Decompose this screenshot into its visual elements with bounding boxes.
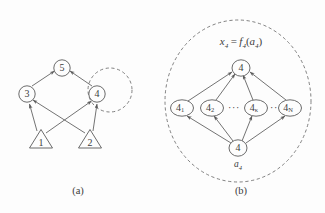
panel-b: x4=f4(a4) 4 bbox=[165, 20, 311, 197]
node-1-label: 1 bbox=[39, 137, 44, 148]
panel-b-edges-down bbox=[187, 116, 285, 143]
edge-bot-to-m2 bbox=[214, 116, 233, 141]
figure-root: 5 3 4 1 2 (a) bbox=[0, 0, 325, 213]
node-b-bottom: 4 bbox=[229, 140, 247, 156]
expansion-formula: x4=f4(a4) bbox=[219, 35, 263, 50]
node-3: 3 bbox=[19, 86, 35, 102]
caption-b: (b) bbox=[235, 185, 248, 197]
node-b-top-label: 4 bbox=[239, 62, 244, 73]
edge-1-to-3 bbox=[30, 104, 38, 131]
node-2-label: 2 bbox=[88, 137, 93, 148]
node-b-m1-sub: 1 bbox=[181, 107, 184, 114]
node-5-label: 5 bbox=[60, 62, 65, 73]
node-4-label: 4 bbox=[95, 88, 100, 99]
node-5: 5 bbox=[54, 60, 70, 76]
formula-close-paren: ) bbox=[259, 35, 263, 48]
node-1: 1 bbox=[30, 130, 53, 149]
edge-1-to-4 bbox=[46, 101, 92, 133]
node-4: 4 bbox=[89, 86, 105, 102]
node-b-mk: 4κ bbox=[245, 100, 268, 116]
node-b-bottom-label: 4 bbox=[236, 142, 241, 153]
edge-m2-to-top bbox=[216, 74, 235, 100]
edge-3-to-5 bbox=[32, 71, 55, 86]
edge-2-to-4 bbox=[93, 104, 97, 131]
formula-eq: = bbox=[231, 35, 237, 47]
panel-a-edges bbox=[30, 71, 98, 133]
formula-lhs-sub: 4 bbox=[225, 42, 229, 50]
node-b-top: 4 bbox=[232, 60, 250, 76]
edge-4-to-5 bbox=[70, 71, 92, 86]
edge-mk-to-top bbox=[243, 75, 253, 100]
bottom-node-annotation: a4 bbox=[234, 159, 243, 171]
panel-b-edges-up bbox=[188, 72, 286, 101]
edge-bot-to-mk bbox=[242, 116, 252, 141]
node-2: 2 bbox=[79, 130, 102, 149]
node-b-m2-sub: 2 bbox=[211, 107, 214, 114]
ellipsis-left: ··· bbox=[228, 102, 240, 113]
edge-2-to-3 bbox=[33, 100, 85, 133]
node-b-m1: 41 bbox=[171, 100, 194, 116]
panel-a: 5 3 4 1 2 (a) bbox=[19, 60, 132, 197]
node-3-label: 3 bbox=[25, 88, 30, 99]
node-b-m2: 42 bbox=[201, 100, 224, 116]
caption-a: (a) bbox=[72, 185, 84, 197]
figure-svg: 5 3 4 1 2 (a) bbox=[0, 0, 325, 213]
ellipsis-right: ·· bbox=[270, 102, 278, 113]
node-b-mN: 4N bbox=[279, 100, 302, 116]
edge-bot-to-mN bbox=[246, 116, 285, 143]
bottom-annotation-sub: 4 bbox=[239, 164, 243, 171]
node-b-mN-sub: N bbox=[288, 107, 293, 114]
edge-mN-to-top bbox=[250, 72, 286, 100]
